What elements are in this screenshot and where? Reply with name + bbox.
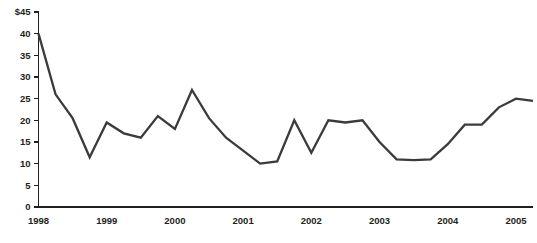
x-axis-tick-label: 2002 xyxy=(301,215,322,226)
x-axis-tick-label: 2003 xyxy=(369,215,390,226)
y-axis-tick-label: 0 xyxy=(25,201,30,212)
line-chart: 0510152025303540$45 19981999200020012002… xyxy=(0,0,537,243)
y-axis-tick-label: 5 xyxy=(25,180,31,191)
x-axis-tick-label: 1999 xyxy=(96,215,117,226)
y-axis-tick-labels: 0510152025303540$45 xyxy=(15,6,32,212)
y-axis-tick-label: 15 xyxy=(20,136,31,147)
y-axis-tick-label: $45 xyxy=(15,6,32,17)
x-axis-tick-label: 2000 xyxy=(164,215,185,226)
x-axis-tick-labels: 19981999200020012002200320042005 xyxy=(28,215,527,226)
y-axis-tick-label: 40 xyxy=(20,28,31,39)
chart-canvas: 0510152025303540$45 19981999200020012002… xyxy=(0,0,537,243)
x-axis-tick-label: 1998 xyxy=(28,215,49,226)
y-axis-tick-label: 10 xyxy=(20,158,31,169)
y-axis-tick-label: 35 xyxy=(20,50,31,61)
x-axis-tick-label: 2004 xyxy=(437,215,459,226)
x-axis-tick-label: 2005 xyxy=(505,215,527,226)
x-axis-tick-label: 2001 xyxy=(233,215,255,226)
y-axis-tick-label: 25 xyxy=(20,93,31,104)
y-axis-tick-label: 30 xyxy=(20,71,31,82)
data-series-line xyxy=(39,34,534,164)
y-axis-tick-label: 20 xyxy=(20,115,31,126)
